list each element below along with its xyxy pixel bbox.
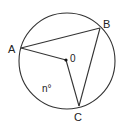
point-label-c: C — [74, 111, 82, 123]
chord-ab — [21, 28, 100, 48]
radius-oc — [66, 60, 79, 106]
angle-label-n: n° — [42, 83, 52, 94]
point-label-a: A — [8, 43, 16, 55]
radius-ao — [21, 48, 66, 60]
point-label-b: B — [103, 18, 110, 30]
circle-diagram: A B C 0 n° — [0, 0, 119, 126]
center-label-o: 0 — [70, 53, 76, 64]
chord-bc — [79, 28, 100, 106]
diagram-canvas: A B C 0 n° — [0, 0, 119, 126]
center-point — [64, 58, 67, 61]
